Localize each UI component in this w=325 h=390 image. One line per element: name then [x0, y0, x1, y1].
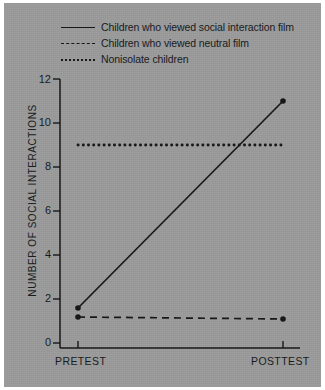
y-axis-ticks — [53, 79, 60, 343]
series-line-neutral-film — [78, 317, 283, 319]
data-point-neutral-film-pretest — [75, 314, 81, 320]
data-point-social-interaction-film-posttest — [280, 98, 286, 104]
figure-panel: Children who viewed social interaction f… — [4, 3, 321, 387]
series-line-social-interaction-film — [78, 101, 283, 308]
plot-area — [4, 3, 321, 387]
data-point-social-interaction-film-pretest — [75, 305, 81, 311]
data-point-neutral-film-posttest — [280, 316, 286, 322]
x-axis-ticks — [78, 341, 283, 348]
